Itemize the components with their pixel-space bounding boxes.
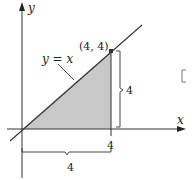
height-label: 4: [126, 84, 133, 97]
y-axis-label: y: [27, 1, 35, 15]
equation-label: y = x: [41, 52, 73, 66]
label-pointer: [58, 64, 74, 80]
height-brace: [116, 51, 123, 127]
base-brace: [22, 148, 111, 155]
x-axis-label: x: [177, 113, 184, 127]
bracket-icon: [182, 70, 186, 82]
point-label: (4, 4): [79, 40, 109, 53]
base-label: 4: [67, 161, 74, 174]
point-marker: [109, 49, 113, 53]
y-axis-arrow-icon: [19, 2, 25, 11]
x-tick-label: 4: [107, 139, 114, 152]
diagram-canvas: y x y = x (4, 4) 4 4 4: [0, 0, 195, 180]
